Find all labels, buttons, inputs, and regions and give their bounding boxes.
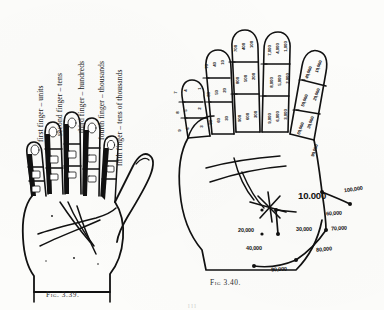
- number-9: 9: [177, 129, 182, 131]
- number-900: 900: [237, 115, 242, 122]
- number-8: 8: [175, 111, 180, 113]
- left-hand-drawing: [2, 6, 188, 306]
- number-7000: 7,000: [267, 45, 272, 56]
- first-finger-label: first finger – units: [36, 85, 45, 142]
- number-50: 50: [214, 90, 219, 95]
- number-10: 10: [220, 60, 225, 65]
- number-2000: 2,000: [285, 73, 290, 84]
- figure-3-40: 1 2 3 4 5 6 7 8 9 10 20 30 40 50 60 70 8…: [176, 20, 384, 310]
- number-200: 200: [251, 73, 256, 80]
- number-700: 700: [233, 45, 238, 52]
- number-3000: 3,000: [283, 109, 288, 120]
- figure-3-40-caption: Fig 3.40.: [210, 278, 241, 287]
- number-60: 60: [216, 118, 221, 123]
- number-9000: 9,000: [267, 113, 272, 124]
- third-finger-label: third finger – hundreds: [77, 61, 86, 133]
- number-1000: 1,000: [283, 41, 288, 52]
- number-40: 40: [212, 62, 217, 67]
- number-80: 80: [206, 92, 211, 97]
- number-7: 7: [173, 91, 178, 93]
- palm-value-30000: 30,000: [296, 226, 312, 232]
- number-5000: 5,000: [277, 75, 282, 86]
- number-500: 500: [243, 75, 248, 82]
- number-600: 600: [245, 113, 250, 120]
- number-100: 100: [249, 41, 254, 48]
- number-30: 30: [224, 116, 229, 121]
- number-300: 300: [253, 111, 258, 118]
- right-hand-drawing: [176, 20, 384, 280]
- scanned-page: first finger – units second finger – ten…: [0, 0, 384, 310]
- number-4: 4: [183, 89, 188, 91]
- palm-value-90000: 90,000: [271, 265, 287, 272]
- number-70: 70: [204, 64, 209, 69]
- number-6: 6: [185, 127, 190, 129]
- palm-value-60000: 60,000: [326, 209, 342, 216]
- number-2: 2: [197, 107, 202, 109]
- palm-value-20000: 20,000: [238, 227, 254, 233]
- number-6000: 6,000: [275, 111, 280, 122]
- palm-value-10000: 10.000: [298, 190, 326, 201]
- page-bottom-edge-text: l l l: [0, 303, 384, 310]
- figure-3-39-caption: Fig. 3.39.: [46, 290, 79, 299]
- palm-value-40000: 40,000: [246, 245, 262, 251]
- figure-3-39: first finger – units second finger – ten…: [2, 6, 188, 306]
- number-1: 1: [197, 87, 202, 89]
- number-4000: 4,000: [275, 43, 280, 54]
- palm-value-70000: 70,000: [331, 224, 347, 231]
- fourth-finger-label: fourth finger – thousands: [97, 61, 106, 140]
- fifth-finger-label: fifth finger – tens of thousands: [115, 69, 124, 166]
- number-400: 400: [241, 43, 246, 50]
- number-8000: 8,000: [269, 77, 274, 88]
- number-90: 90: [208, 120, 213, 125]
- number-800: 800: [235, 77, 240, 84]
- number-3: 3: [199, 125, 204, 127]
- second-finger-label: second finger – tens: [55, 73, 64, 136]
- number-5: 5: [183, 109, 188, 111]
- number-20: 20: [222, 88, 227, 93]
